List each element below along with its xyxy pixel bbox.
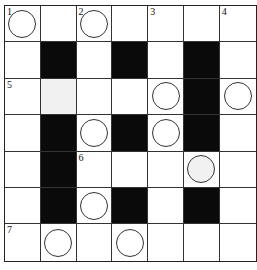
grid-cell[interactable]	[148, 115, 184, 151]
circle-marker-icon	[80, 192, 108, 220]
grid-cell[interactable]	[220, 224, 256, 260]
circle-marker-icon	[187, 155, 215, 183]
grid-cell[interactable]	[220, 42, 256, 78]
grid-cell[interactable]	[112, 79, 148, 115]
circle-marker-icon	[8, 10, 36, 38]
grid-cell[interactable]	[112, 152, 148, 188]
grid-cell[interactable]	[184, 152, 220, 188]
grid-cell[interactable]	[148, 224, 184, 260]
clue-number: 3	[150, 6, 155, 17]
grid-cell[interactable]	[77, 188, 113, 224]
circle-marker-icon	[80, 119, 108, 147]
grid-cell[interactable]	[5, 188, 41, 224]
grid-cell[interactable]	[5, 42, 41, 78]
grid-cell[interactable]	[220, 115, 256, 151]
grid-cell[interactable]	[41, 79, 77, 115]
grid-cell[interactable]: 1	[5, 6, 41, 42]
clue-number: 4	[222, 6, 227, 17]
grid-cell[interactable]	[77, 224, 113, 260]
grid-cell[interactable]	[220, 79, 256, 115]
circle-marker-icon	[152, 82, 180, 110]
grid-cell[interactable]	[148, 188, 184, 224]
black-square	[41, 152, 77, 188]
grid-cell[interactable]	[112, 6, 148, 42]
circle-marker-icon	[224, 82, 252, 110]
circle-marker-icon	[116, 229, 144, 257]
grid-cell[interactable]	[41, 6, 77, 42]
grid-cell[interactable]	[220, 152, 256, 188]
circle-marker-icon	[152, 119, 180, 147]
grid-cell[interactable]	[148, 42, 184, 78]
grid-cell[interactable]	[148, 152, 184, 188]
grid-cell[interactable]: 2	[77, 6, 113, 42]
circle-marker-icon	[80, 10, 108, 38]
black-square	[41, 115, 77, 151]
black-square	[112, 188, 148, 224]
black-square	[184, 115, 220, 151]
grid-cell[interactable]	[220, 188, 256, 224]
grid-cell[interactable]: 7	[5, 224, 41, 260]
grid-cell[interactable]	[5, 115, 41, 151]
grid-cell[interactable]	[77, 115, 113, 151]
grid-cell[interactable]	[148, 79, 184, 115]
grid-cell[interactable]	[184, 224, 220, 260]
black-square	[184, 42, 220, 78]
grid-cell[interactable]	[77, 79, 113, 115]
grid-cell[interactable]: 3	[148, 6, 184, 42]
grid-cell[interactable]	[5, 152, 41, 188]
black-square	[112, 42, 148, 78]
black-square	[41, 188, 77, 224]
black-square	[112, 115, 148, 151]
clue-number: 7	[7, 224, 12, 235]
circle-marker-icon	[44, 229, 72, 257]
grid-cell[interactable]	[112, 224, 148, 260]
grid-cell[interactable]	[77, 42, 113, 78]
grid-cell[interactable]: 4	[220, 6, 256, 42]
crossword-grid: 1234567	[4, 5, 257, 262]
black-square	[41, 42, 77, 78]
clue-number: 6	[79, 152, 84, 163]
grid-cell[interactable]	[41, 224, 77, 260]
grid-cell[interactable]	[184, 6, 220, 42]
clue-number: 5	[7, 79, 12, 90]
black-square	[184, 188, 220, 224]
grid-cell[interactable]: 6	[77, 152, 113, 188]
grid-cell[interactable]: 5	[5, 79, 41, 115]
black-square	[184, 79, 220, 115]
